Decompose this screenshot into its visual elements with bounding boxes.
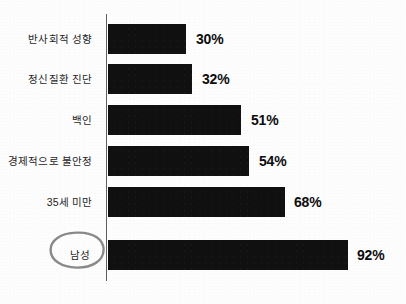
bar-row[interactable]: 반사회적 성향 30% <box>0 24 406 54</box>
bar-row[interactable]: 정신질환 진단 32% <box>0 64 406 94</box>
bar-fill[interactable] <box>108 187 285 217</box>
category-label: 35세 미만 <box>47 196 92 209</box>
bar-track <box>108 24 186 54</box>
category-label: 반사회적 성향 <box>28 33 92 46</box>
bar-track <box>108 64 192 94</box>
chart-plot-area: 반사회적 성향 30% 정신질환 진단 32% 백인 51% 경제적으로 불안정 <box>0 0 406 304</box>
bar-row[interactable]: 백인 51% <box>0 105 406 135</box>
bar-value-label: 54% <box>259 153 286 169</box>
category-label-highlighted: 남성 <box>70 249 90 262</box>
category-label: 백인 <box>72 114 92 127</box>
bar-value-label: 51% <box>251 112 278 128</box>
bar-track <box>108 187 285 217</box>
bar-value-label: 32% <box>202 71 229 87</box>
category-label: 정신질환 진단 <box>28 73 92 86</box>
bar-row[interactable]: 35세 미만 68% <box>0 187 406 217</box>
bar-value-label: 68% <box>294 194 321 210</box>
bar-row[interactable]: 남성 92% <box>0 240 406 270</box>
bar-fill[interactable] <box>108 64 192 94</box>
bar-fill[interactable] <box>108 146 249 176</box>
bar-track <box>108 146 249 176</box>
bar-track <box>108 240 348 270</box>
category-label: 경제적으로 불안정 <box>8 155 92 168</box>
bar-chart-figure: 반사회적 성향 30% 정신질환 진단 32% 백인 51% 경제적으로 불안정 <box>0 0 406 304</box>
bar-fill[interactable] <box>108 24 186 54</box>
bar-value-label: 30% <box>196 31 223 47</box>
bar-value-label: 92% <box>357 247 384 263</box>
bar-fill[interactable] <box>108 240 348 270</box>
bar-track <box>108 105 241 135</box>
bar-fill[interactable] <box>108 105 241 135</box>
bar-row[interactable]: 경제적으로 불안정 54% <box>0 146 406 176</box>
